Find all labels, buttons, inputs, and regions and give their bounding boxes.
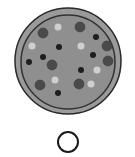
olive-topping [26,59,32,65]
pepperoni-topping [35,80,45,90]
pepperoni-topping [75,22,85,32]
mushroom-topping [88,81,95,88]
pepperoni-topping [74,79,84,89]
olive-topping [55,90,61,96]
pepperoni-topping [38,28,48,38]
mushroom-topping [29,43,36,50]
olive-topping [93,34,99,40]
olive-topping [40,54,46,60]
scene [0,0,135,157]
olive-topping [56,44,62,50]
mushroom-topping [94,67,101,74]
mushroom-topping [78,43,85,50]
pepperoni-topping [102,41,112,51]
pepperoni-topping [47,60,57,70]
pizza-cheese [21,15,115,109]
pepperoni-topping [103,56,113,66]
pizza-illustration [15,8,121,114]
olive-topping [90,52,96,58]
mushroom-topping [55,24,62,31]
mushroom-topping [52,77,59,84]
olive-topping [78,67,84,73]
empty-circle-icon[interactable] [58,132,78,152]
